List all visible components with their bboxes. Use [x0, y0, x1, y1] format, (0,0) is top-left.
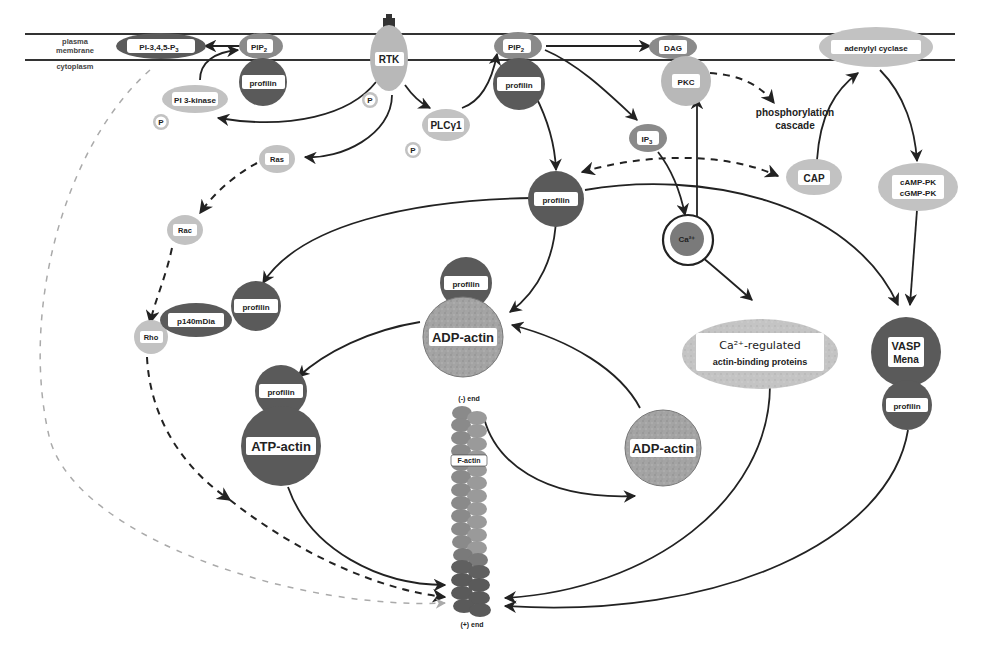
node-p140mdia[interactable]: p140mDia: [160, 303, 232, 337]
svg-text:CAP: CAP: [803, 173, 824, 184]
node-ip3[interactable]: IP3: [629, 124, 667, 152]
node-phosphate-pi3k[interactable]: P: [153, 114, 169, 130]
node-pkc[interactable]: PKC: [661, 56, 711, 106]
svg-text:PLCγ1: PLCγ1: [430, 120, 462, 131]
svg-text:Rho: Rho: [144, 333, 159, 342]
node-adenylyl-cyclase[interactable]: adenylyl cyclase: [819, 27, 933, 67]
node-profilin-topmid[interactable]: profilin: [493, 58, 545, 110]
node-adp-actin-top[interactable]: ADP-actin: [423, 297, 503, 377]
svg-text:ATP-actin: ATP-actin: [251, 439, 311, 454]
node-f-actin-filament[interactable]: (-) end F-actin (+) end: [451, 395, 491, 629]
arrow-camp-pk-to-vasp: [910, 210, 917, 305]
node-rac[interactable]: Rac: [167, 215, 203, 245]
arrow-pi3k-to-pip2: [200, 50, 238, 80]
svg-text:VASP: VASP: [891, 340, 920, 352]
arrow-profilin-mid-to-center: [535, 95, 556, 170]
f-actin-subunits: [451, 406, 491, 617]
svg-text:Ca²⁺-regulated: Ca²⁺-regulated: [719, 339, 800, 352]
arrow-profilin-center-to-vasp: [585, 184, 898, 305]
node-pi345p3[interactable]: PI-3,4,5-P3: [116, 33, 206, 59]
arrow-ca-proteins-to-plus-end: [505, 385, 770, 598]
arrow-ca-to-ca-proteins: [702, 257, 752, 300]
f-actin-minus-end-label: (-) end: [458, 395, 479, 403]
node-ca-regulated-proteins[interactable]: Ca²⁺-regulated actin-binding proteins: [682, 319, 838, 389]
svg-text:Ras: Ras: [270, 155, 284, 164]
node-profilin-vasp[interactable]: profilin: [882, 380, 932, 430]
arrow-profilin-center-to-mdia: [263, 198, 533, 283]
svg-text:phosphorylation: phosphorylation: [756, 107, 834, 118]
node-vasp-mena[interactable]: VASP Mena: [871, 317, 941, 387]
node-dag[interactable]: DAG: [649, 35, 697, 59]
svg-text:DAG: DAG: [664, 44, 682, 53]
node-pi3-kinase[interactable]: PI 3-kinase: [162, 85, 228, 113]
svg-text:profilin: profilin: [452, 280, 479, 289]
node-ras[interactable]: Ras: [259, 145, 295, 173]
svg-text:Rac: Rac: [178, 226, 192, 235]
arrow-atp-actin-to-plus-end: [288, 487, 445, 585]
svg-text:P: P: [367, 96, 373, 105]
membrane-label-plasma: plasma: [62, 37, 89, 46]
arrow-rtk-to-plcg: [405, 85, 430, 108]
actin-signaling-diagram: plasma membrane cytoplasm: [0, 0, 991, 648]
arrow-pip3-to-plus-end-light-dashed: [40, 70, 445, 603]
f-actin-plus-end-label: (+) end: [460, 621, 483, 629]
node-pip2-left[interactable]: PIP2: [239, 33, 283, 59]
svg-text:profilin: profilin: [893, 402, 920, 411]
node-profilin-mdia[interactable]: profilin: [231, 281, 281, 331]
node-rtk[interactable]: RTK: [370, 14, 408, 91]
svg-text:RTK: RTK: [379, 54, 400, 65]
arrow-rho-down-dashed: [147, 357, 230, 500]
arrow-ras-to-rac-dashed: [200, 163, 257, 213]
svg-text:ADP-actin: ADP-actin: [632, 441, 694, 456]
arrow-adenylyl-cyclase-to-camp-pk: [880, 70, 917, 161]
arrow-plcg-to-pip2: [462, 54, 497, 108]
arrow-profilin-center-to-adp-actin: [510, 218, 556, 312]
svg-text:PKC: PKC: [678, 78, 695, 87]
node-pip2-mid[interactable]: PIP2: [494, 32, 542, 60]
svg-text:profilin: profilin: [242, 303, 269, 312]
arrow-profilin-cap-dashed: [582, 158, 778, 176]
arrow-pkc-to-phosphorylation: [710, 73, 774, 103]
svg-text:cascade: cascade: [775, 120, 815, 131]
svg-text:cGMP-PK: cGMP-PK: [900, 189, 937, 198]
node-profilin-topleft[interactable]: profilin: [239, 58, 287, 106]
svg-text:profilin: profilin: [505, 81, 532, 90]
svg-text:PI 3-kinase: PI 3-kinase: [174, 96, 216, 105]
svg-text:adenylyl cyclase: adenylyl cyclase: [844, 44, 908, 53]
arrow-adp-actin-to-atp-actin: [298, 322, 420, 377]
node-phosphate-plc[interactable]: P: [405, 142, 421, 158]
svg-text:ADP-actin: ADP-actin: [432, 330, 494, 345]
arrow-factin-to-adp-actin: [484, 418, 635, 496]
arrow-adp-right-to-adp-top: [512, 325, 640, 408]
node-calcium[interactable]: Ca²⁺: [663, 215, 713, 265]
node-plcg1[interactable]: PLCγ1: [422, 109, 470, 141]
svg-text:Mena: Mena: [893, 354, 919, 365]
f-actin-label: F-actin: [458, 457, 481, 464]
node-adp-actin-right[interactable]: ADP-actin: [625, 410, 701, 486]
svg-text:P: P: [158, 118, 164, 127]
svg-text:actin-binding proteins: actin-binding proteins: [713, 357, 808, 367]
node-cap[interactable]: CAP: [786, 159, 842, 195]
svg-text:p140mDia: p140mDia: [177, 317, 215, 326]
membrane-label-membrane: membrane: [56, 46, 94, 55]
svg-text:cAMP-PK: cAMP-PK: [900, 178, 936, 187]
svg-text:P: P: [410, 146, 416, 155]
node-phosphate-rtk[interactable]: P: [362, 92, 378, 108]
svg-text:PI-3,4,5-P3: PI-3,4,5-P3: [139, 43, 179, 53]
svg-text:profilin: profilin: [267, 388, 294, 397]
membrane-label-cytoplasm: cytoplasm: [56, 62, 93, 71]
svg-text:profilin: profilin: [249, 79, 276, 88]
node-atp-actin[interactable]: ATP-actin: [241, 406, 321, 486]
svg-text:Ca²⁺: Ca²⁺: [679, 235, 696, 244]
node-profilin-center[interactable]: profilin: [528, 171, 584, 227]
svg-text:profilin: profilin: [542, 196, 569, 205]
node-camp-cgmp-pk[interactable]: cAMP-PK cGMP-PK: [878, 163, 958, 211]
